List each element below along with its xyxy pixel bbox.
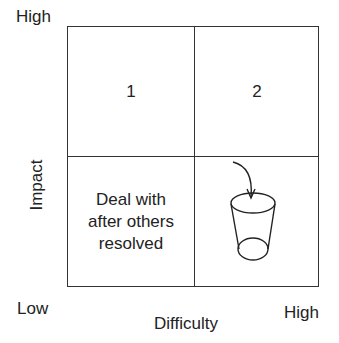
quadrant-number: 2 <box>252 81 261 103</box>
quadrant-number: 1 <box>126 81 135 103</box>
quadrant-top-right: 2 <box>195 27 319 156</box>
quadrant-bottom-left: Deal with after others resolved <box>78 157 184 286</box>
x-axis-label: Difficulty <box>154 314 218 334</box>
x-axis-high-label: High <box>284 303 319 323</box>
y-axis-high-label: High <box>16 7 51 27</box>
quadrant-bottom-right <box>195 157 319 286</box>
trash-bin-icon <box>195 157 319 286</box>
x-axis-low-label: Low <box>17 299 48 319</box>
priority-matrix: 1 2 Deal with after others resolved <box>67 26 319 287</box>
quadrant-top-left: 1 <box>68 27 194 156</box>
y-axis-label: Impact <box>27 155 47 215</box>
quadrant-text: Deal with after others resolved <box>78 189 184 255</box>
